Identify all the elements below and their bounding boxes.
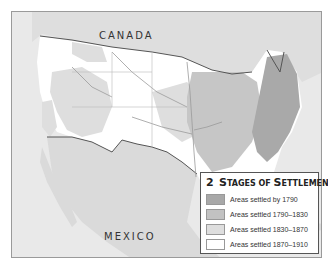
legend-item-1790-1830: Areas settled 1790–1830 xyxy=(206,207,313,222)
legend-number: 2 xyxy=(206,176,214,189)
country-label-canada: CANADA xyxy=(99,30,154,41)
legend-label: Areas settled by 1790 xyxy=(230,196,298,203)
legend-swatch xyxy=(206,194,225,205)
country-label-mexico: MEXICO xyxy=(104,231,156,242)
legend-label: Areas settled 1830–1870 xyxy=(230,226,308,233)
legend-label: Areas settled 1790–1830 xyxy=(230,211,308,218)
legend-item-by-1790: Areas settled by 1790 xyxy=(206,192,313,207)
map-legend: 2 STAGES OF SETTLEMENT Areas settled by … xyxy=(200,172,319,254)
legend-swatch xyxy=(206,239,225,250)
legend-swatch xyxy=(206,209,225,220)
legend-item-1830-1870: Areas settled 1830–1870 xyxy=(206,222,313,237)
legend-swatch xyxy=(206,224,225,235)
legend-label: Areas settled 1870–1910 xyxy=(230,241,308,248)
legend-item-1870-1910: Areas settled 1870–1910 xyxy=(206,237,313,252)
legend-title: 2 STAGES OF SETTLEMENT xyxy=(206,176,313,189)
